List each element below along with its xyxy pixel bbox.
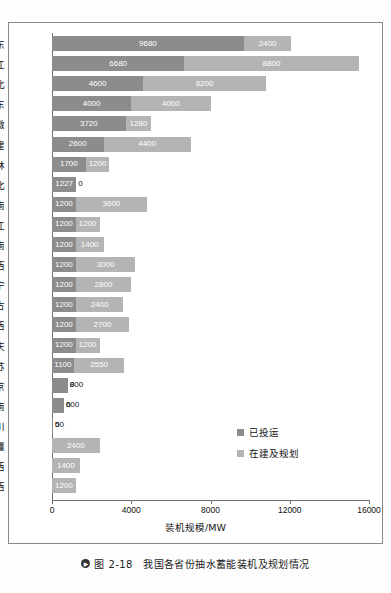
bar-value-label: 6200 <box>196 80 214 88</box>
bar-row: 内蒙古12002400 <box>9 296 382 314</box>
bar-segment: 2700 <box>76 317 129 332</box>
bar-value-label: 2600 <box>69 140 87 148</box>
bar-value-label: 8800 <box>263 60 281 68</box>
category-label: 广东 <box>0 37 5 51</box>
category-label: 湖北 <box>0 178 5 192</box>
bar-row: 吉林17001200 <box>9 156 382 174</box>
bar-segment: 1200 <box>52 197 76 212</box>
legend-label: 在建及规划 <box>249 446 299 460</box>
category-label: 海南 <box>0 399 5 413</box>
bar-row: 山东40004000 <box>9 95 382 113</box>
bar-segment: 1280 <box>126 116 151 131</box>
bar-segment: 2400 <box>244 36 292 51</box>
bar-segment: 800 <box>52 378 68 393</box>
bar-value-label: 1200 <box>55 241 73 249</box>
bar-value-label: 2400 <box>259 40 277 48</box>
category-label: 黑龙江 <box>0 218 5 232</box>
stacked-bar: 37201280 <box>52 116 151 131</box>
category-label: 重庆 <box>0 339 5 353</box>
stacked-bar: 26004400 <box>52 137 191 152</box>
bar-value-label: 4000 <box>83 100 101 108</box>
stacked-bar: 12002400 <box>52 297 123 312</box>
bar-segment: 1200 <box>52 277 76 292</box>
bar-row: 广东96802400 <box>9 35 382 53</box>
bar-value-label: 2400 <box>67 442 85 450</box>
category-label: 新疆 <box>0 439 5 453</box>
bar-segment: 8800 <box>184 56 358 71</box>
bar-row: 江苏11002550 <box>9 357 382 375</box>
stacked-bar: 17001200 <box>52 157 109 172</box>
bar-segment: 1200 <box>76 338 100 353</box>
stacked-bar: 12001200 <box>52 338 100 353</box>
bar-segment: 1227 <box>52 177 76 192</box>
x-axis-title: 装机规模/MW <box>9 520 382 534</box>
stacked-bar: 12003600 <box>52 197 147 212</box>
x-tick-mark <box>131 500 132 504</box>
bar-segment: 9680 <box>52 36 244 51</box>
bar-segment: 50 <box>52 418 53 433</box>
bar-segment: 1200 <box>52 478 76 493</box>
bar-value-label: 2800 <box>95 281 113 289</box>
bar-row: 山西12002700 <box>9 316 382 334</box>
stacked-bar: 12270 <box>52 177 76 192</box>
bar-segment: 1200 <box>52 297 76 312</box>
category-label: 山东 <box>0 97 5 111</box>
stacked-bar: 02400 <box>52 438 100 453</box>
bar-value-label: 0 <box>78 180 82 188</box>
bar-value-label: 1200 <box>55 281 73 289</box>
legend-item: 在建及规划 <box>237 446 299 460</box>
bar-value-label: 1200 <box>55 200 73 208</box>
stacked-bar: 12001400 <box>52 237 104 252</box>
category-label: 陕西 <box>0 459 5 473</box>
bar-segment: 6680 <box>52 56 184 71</box>
bar-segment: 2550 <box>74 358 125 373</box>
category-label: 四川 <box>0 419 5 433</box>
bar-segment: 2400 <box>52 438 100 453</box>
bar-segment: 1200 <box>52 257 76 272</box>
x-tick-mark <box>290 500 291 504</box>
category-label: 辽宁 <box>0 278 5 292</box>
x-tick-mark <box>52 500 53 504</box>
bar-row: 重庆12001200 <box>9 337 382 355</box>
bar-row: 湖北12270 <box>9 176 382 194</box>
bar-row: 海南6000 <box>9 397 382 415</box>
x-tick-label: 4000 <box>122 505 141 515</box>
bar-value-label: 2700 <box>94 321 112 329</box>
bar-row: 浙江66808800 <box>9 55 382 73</box>
category-label: 福建 <box>0 138 5 152</box>
bar-value-label: 1200 <box>89 160 107 168</box>
bar-value-label: 4600 <box>89 80 107 88</box>
bar-value-label: 0 <box>55 421 59 429</box>
bar-value-label: 4000 <box>162 100 180 108</box>
stacked-bar: 66808800 <box>52 56 359 71</box>
bar-row: 新疆02400 <box>9 437 382 455</box>
stacked-bar: 12003000 <box>52 257 135 272</box>
caption-marker-icon: ▶ <box>81 559 90 568</box>
bar-segment: 6200 <box>143 76 266 91</box>
bar-segment: 3000 <box>76 257 135 272</box>
bar-value-label: 1700 <box>60 160 78 168</box>
bar-value-label: 1200 <box>79 220 97 228</box>
category-label: 广西 <box>0 479 5 493</box>
x-tick-label: 0 <box>50 505 55 515</box>
bar-row: 河北46006200 <box>9 75 382 93</box>
x-tick-label: 12000 <box>278 505 302 515</box>
bar-row: 广西01200 <box>9 477 382 495</box>
legend-label: 已投运 <box>249 425 279 439</box>
stacked-bar: 12002800 <box>52 277 131 292</box>
bar-value-label: 3000 <box>97 261 115 269</box>
category-label: 浙江 <box>0 57 5 71</box>
stacked-bar: 96802400 <box>52 36 291 51</box>
bar-segment: 2800 <box>76 277 131 292</box>
bar-segment: 1200 <box>52 317 76 332</box>
bar-segment: 4000 <box>131 96 210 111</box>
bar-segment: 2400 <box>76 297 124 312</box>
category-label: 江苏 <box>0 359 5 373</box>
legend-item: 已投运 <box>237 425 299 439</box>
bar-value-label: 2400 <box>91 301 109 309</box>
bar-segment: 1100 <box>52 358 74 373</box>
stacked-bar: 12001200 <box>52 217 100 232</box>
x-tick-mark <box>211 500 212 504</box>
bar-value-label: 1400 <box>57 462 75 470</box>
stacked-bar: 8000 <box>52 378 68 393</box>
